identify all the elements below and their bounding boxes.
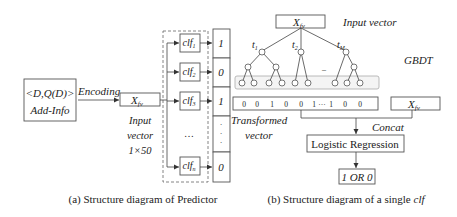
tv-2: 1 [270, 100, 274, 109]
output-value-1: 1 [218, 37, 224, 49]
input-vector-box: Xfv [120, 93, 160, 108]
output-value-3: 1 [218, 95, 224, 107]
clf-box-3: clf3 [180, 92, 200, 110]
source-box-line2: Add-Info [29, 104, 70, 116]
caption-b: (b) Structure diagram of a single clf [267, 193, 426, 206]
tv-0: 0 [242, 100, 246, 109]
concat-label: Concat [372, 121, 405, 133]
clf-n-sub: n [193, 166, 196, 172]
output-column: 1 0 1 · · · 0 [213, 29, 230, 182]
panel-b-single-clf: Xfv Input vector GBDT t1 t2 tM [231, 15, 440, 206]
clf-2-sub: 2 [193, 72, 196, 78]
concat-input-box: Xfv [391, 97, 440, 112]
clf-box-2: clf2 [180, 63, 200, 81]
caption-a: (a) Structure diagram of Predictor [68, 193, 217, 206]
transformed-label-line1: Transformed [231, 114, 288, 126]
clf-box-1: clf1 [180, 34, 200, 52]
clf-ellipsis: … [184, 128, 194, 139]
tree-2-sub: 2 [295, 45, 298, 51]
tv-9: 0 [358, 100, 362, 109]
source-box-line1: <D,Q(D)> [26, 87, 75, 100]
tree-M [332, 49, 363, 86]
svg-text:t1: t1 [252, 39, 258, 51]
input-vector-sub: fv [138, 100, 144, 108]
tv-ellipsis: ··· [318, 100, 326, 109]
input-caption-line2: vector [127, 130, 154, 141]
svg-text:t2: t2 [292, 39, 298, 51]
source-box: <D,Q(D)> Add-Info [24, 79, 76, 121]
transformed-vector-box: 0 0 1 0 0 1 ··· 1 0 0 [233, 97, 378, 110]
final-output-box: 1 OR 0 [339, 169, 375, 184]
caption-b-italic: clf [414, 193, 427, 205]
encoding-label: Encoding [77, 85, 121, 97]
output-ellipsis-3: · [220, 138, 223, 147]
output-value-2: 0 [218, 66, 224, 78]
output-ellipsis-2: · [220, 129, 223, 138]
logistic-regression-box: Logistic Regression [307, 135, 404, 152]
gbdt-input-box: Xfv [276, 15, 325, 30]
tv-8: 0 [343, 100, 347, 109]
transformed-label-line2: vector [245, 129, 273, 141]
tree-1-sub: 1 [255, 45, 258, 51]
clf-box-n: clfn [180, 157, 200, 175]
caption-b-prefix: (b) Structure diagram of a single [267, 193, 413, 206]
logistic-regression-label: Logistic Regression [311, 138, 399, 150]
tree-ellipsis: – [321, 65, 327, 74]
final-output-label: 1 OR 0 [341, 171, 373, 183]
clf-1-sub: 1 [193, 43, 196, 49]
panel-a-predictor: <D,Q(D)> Add-Info Encoding Xfv Input vec… [24, 29, 230, 206]
concat-input-sub: fv [415, 104, 421, 112]
input-vector-label: Input vector [342, 16, 397, 28]
output-ellipsis-1: · [220, 120, 223, 129]
tv-4: 0 [299, 100, 303, 109]
output-value-n: 0 [218, 161, 224, 173]
concat-connector [301, 110, 412, 118]
tv-5: 1 [312, 100, 316, 109]
tv-7: 1 [329, 100, 333, 109]
tv-3: 0 [284, 100, 288, 109]
clf-3-sub: 3 [192, 101, 196, 107]
input-caption-line3: 1×50 [129, 145, 153, 156]
tv-1: 0 [255, 100, 259, 109]
input-caption-line1: Input [128, 115, 152, 126]
gbdt-label: GBDT [404, 54, 434, 66]
